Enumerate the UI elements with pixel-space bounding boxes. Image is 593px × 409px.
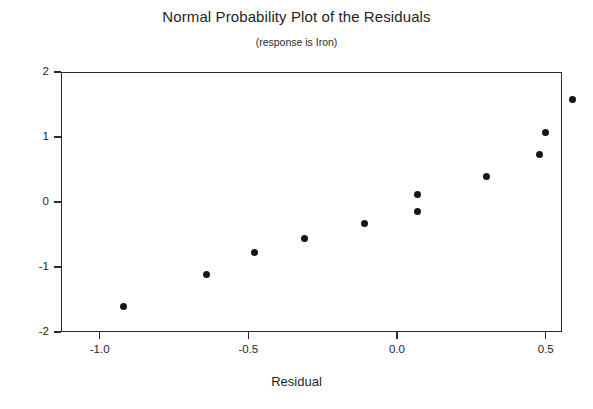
y-tick-label: 1 bbox=[23, 131, 49, 143]
x-tick-mark bbox=[99, 332, 100, 339]
x-axis-title: Residual bbox=[0, 374, 593, 389]
normal-probability-plot-figure: Normal Probability Plot of the Residuals… bbox=[0, 0, 593, 409]
y-tick-mark bbox=[54, 331, 61, 332]
y-tick-label: 2 bbox=[23, 66, 49, 78]
y-tick-label: -1 bbox=[23, 261, 49, 273]
y-tick-mark bbox=[54, 201, 61, 202]
chart-subtitle: (response is Iron) bbox=[0, 36, 593, 48]
x-tick-label: 0.5 bbox=[524, 344, 568, 356]
x-tick-label: -0.5 bbox=[226, 344, 270, 356]
x-tick-label: -1.0 bbox=[78, 344, 122, 356]
plot-area-frame bbox=[61, 72, 562, 332]
y-tick-mark bbox=[54, 136, 61, 137]
y-tick-mark bbox=[54, 71, 61, 72]
x-tick-mark bbox=[545, 332, 546, 339]
data-point bbox=[569, 96, 576, 103]
y-tick-mark bbox=[54, 266, 61, 267]
y-tick-label: -2 bbox=[23, 326, 49, 338]
x-tick-mark bbox=[396, 332, 397, 339]
x-tick-label: 0.0 bbox=[375, 344, 419, 356]
x-tick-mark bbox=[248, 332, 249, 339]
chart-title: Normal Probability Plot of the Residuals bbox=[0, 8, 593, 25]
y-tick-label: 0 bbox=[23, 196, 49, 208]
